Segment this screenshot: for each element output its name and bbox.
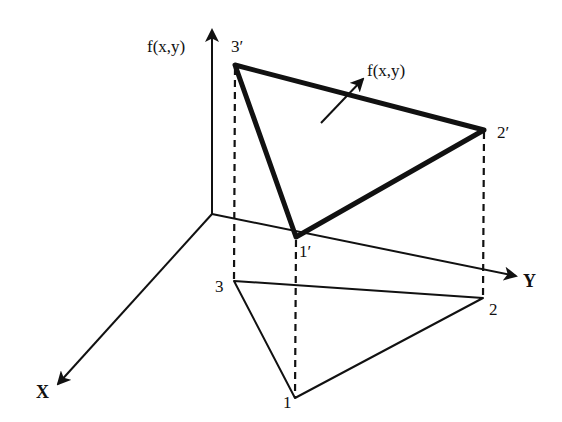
surface-normal-arrow: [321, 79, 363, 123]
surface-normal-label: f(x,y): [367, 61, 405, 80]
vertex-label-2: 2: [489, 300, 498, 319]
projection-line-1: [295, 240, 296, 398]
base-triangle-outline: [234, 281, 483, 398]
vertex-label-1p: 1′: [299, 242, 311, 261]
vertex-label-3: 3: [215, 277, 224, 296]
vertex-label-1: 1: [283, 393, 292, 412]
y-axis-label: Y: [523, 271, 536, 291]
y-axis-line: [212, 214, 516, 276]
lifted-triangle-outline: [235, 65, 484, 237]
x-axis-line: [58, 214, 212, 384]
projection-line-2: [483, 132, 484, 298]
projection-line-3: [234, 68, 235, 281]
vertex-label-3p: 3′: [231, 37, 243, 56]
triangle-element-diagram: f(x,y) f(x,y) Y X 3′ 2′ 1′ 3 2 1: [0, 0, 562, 422]
lifted-triangle: [235, 65, 484, 237]
f-axis-label: f(x,y): [147, 37, 185, 56]
projection-lines: [234, 68, 484, 398]
x-axis-label: X: [36, 382, 49, 402]
vertex-label-2p: 2′: [497, 123, 509, 142]
base-triangle: [234, 281, 483, 398]
